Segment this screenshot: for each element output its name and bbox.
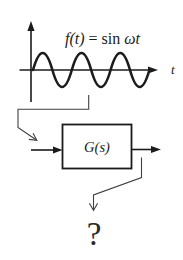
system-block: G(s) [63, 125, 132, 169]
formula-lhs: f(t) [65, 30, 85, 48]
diagram-stage: f(t) = sin ωt t G(s) ? [0, 0, 183, 260]
signal-formula-label: f(t) = sin ωt [65, 30, 141, 48]
system-block-label: G(s) [84, 139, 110, 156]
signal-plot: f(t) = sin ωt t [20, 21, 176, 102]
output-arrow-arrowhead [151, 146, 161, 153]
formula-function: sin [102, 30, 121, 47]
time-axis-label: t [171, 62, 175, 77]
amplitude-axis-arrowhead [27, 21, 34, 31]
diagram-canvas: f(t) = sin ωt t G(s) ? [0, 0, 183, 260]
formula-equals: = [85, 30, 102, 47]
output-arrow [132, 146, 162, 153]
formula-argument: ωt [120, 30, 140, 47]
question-mark-label: ? [87, 216, 102, 252]
input-arrow-arrowhead [53, 147, 63, 154]
input-arrow [31, 147, 63, 154]
